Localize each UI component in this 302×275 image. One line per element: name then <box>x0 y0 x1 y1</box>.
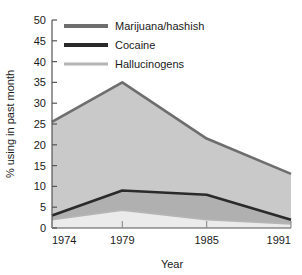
y-tick-label-0: 0 <box>40 222 46 234</box>
y-tick-label-25: 25 <box>34 118 46 130</box>
x-tick-label-1991: 1991 <box>267 234 291 246</box>
area-chart: 50454035302520151050 1974197919851991 % … <box>0 0 302 275</box>
chart-container: 50454035302520151050 1974197919851991 % … <box>0 0 302 275</box>
y-axis-title: % using in past month <box>4 70 16 178</box>
y-tick-label-10: 10 <box>34 180 46 192</box>
legend-label-2: Hallucinogens <box>115 58 185 70</box>
y-tick-label-20: 20 <box>34 139 46 151</box>
y-tick-label-5: 5 <box>40 201 46 213</box>
y-tick-label-40: 40 <box>34 56 46 68</box>
x-tick-label-1985: 1985 <box>194 234 218 246</box>
x-tick-label-1974: 1974 <box>52 234 76 246</box>
y-tick-label-50: 50 <box>34 14 46 26</box>
x-tick-label-1979: 1979 <box>110 234 134 246</box>
y-tick-label-15: 15 <box>34 160 46 172</box>
y-tick-label-35: 35 <box>34 76 46 88</box>
y-tick-label-45: 45 <box>34 35 46 47</box>
legend-label-1: Cocaine <box>115 39 155 51</box>
x-axis-title: Year <box>161 258 184 270</box>
legend-label-0: Marijuana/hashish <box>115 20 204 32</box>
y-tick-label-30: 30 <box>34 97 46 109</box>
